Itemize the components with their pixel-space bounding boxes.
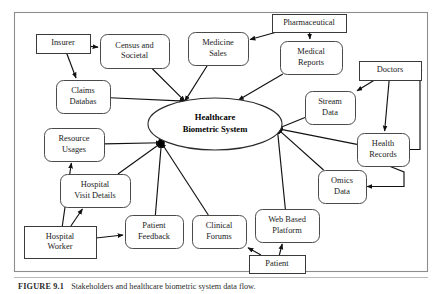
node-label-medical_reports: Reports <box>298 58 324 67</box>
node-label-claims_database: Claims <box>71 86 95 95</box>
edge-doctors-to-stream_data <box>357 80 375 91</box>
edge-health_records-to-omics_data <box>367 166 404 187</box>
edge-medical_reports-to-center <box>238 74 282 100</box>
edge-clinical_forums-to-center <box>161 143 208 215</box>
node-label-stream_data: Stream <box>318 97 342 106</box>
caption-text: Stakeholders and healthcare biometric sy… <box>71 282 255 291</box>
node-label-health_records: Health <box>372 139 395 148</box>
center-label-line-2: Biometric System <box>183 124 249 134</box>
node-health_records[interactable]: HealthRecords <box>358 134 410 167</box>
node-label-insurer: Insurer <box>51 38 75 47</box>
node-label-hospital_worker: Hospital <box>46 232 75 241</box>
edge-web_platform-to-center <box>277 129 285 209</box>
center-label-line-1: Healthcare <box>195 112 236 122</box>
node-label-census_societal: Societal <box>121 51 149 60</box>
node-hospital_worker[interactable]: HospitalWorker <box>25 227 97 259</box>
node-label-hospital_visit: Hospital <box>81 180 110 189</box>
node-claims_database[interactable]: ClaimsDatabas <box>57 81 111 114</box>
node-stream_data[interactable]: StreamData <box>306 92 356 125</box>
edge-patient_feedback-to-center <box>155 143 161 215</box>
node-resource_usages[interactable]: ResourceUsages <box>45 129 105 162</box>
node-label-census_societal: Census and <box>115 41 154 50</box>
node-label-patient: Patient <box>265 259 289 268</box>
node-label-omics_data: Omics <box>331 176 353 185</box>
edge-medicine_sales-to-center <box>185 65 208 101</box>
node-label-clinical_forums: Clinical <box>206 221 233 230</box>
edge-census_societal-to-center <box>152 68 185 101</box>
node-label-clinical_forums: Forums <box>206 232 232 241</box>
node-patient_feedback[interactable]: PatientFeedback <box>126 216 184 249</box>
diagram-canvas: HealthcareBiometric System InsurerCensus… <box>0 0 442 294</box>
edge-insurer-to-census_societal <box>90 46 98 47</box>
node-label-omics_data: Data <box>334 187 350 196</box>
center-node[interactable]: HealthcareBiometric System <box>148 98 282 150</box>
node-omics_data[interactable]: OmicsData <box>319 171 367 204</box>
node-medical_reports[interactable]: MedicalReports <box>281 42 343 75</box>
edge-hospital_worker-to-hospital_visit <box>71 209 83 226</box>
node-label-stream_data: Data <box>322 108 338 117</box>
node-hospital_visit[interactable]: HospitalVisit Details <box>61 175 131 208</box>
edge-doctors-to-health_records <box>385 80 390 131</box>
node-label-patient_feedback: Feedback <box>138 232 171 241</box>
edge-patient-to-clinical_forums <box>248 248 261 255</box>
node-label-hospital_worker: Worker <box>48 242 73 251</box>
edge-insurer-to-claims_database <box>67 53 76 78</box>
edge-health_records-to-center <box>277 129 357 145</box>
node-label-doctors: Doctors <box>377 65 404 74</box>
node-label-resource_usages: Resource <box>58 134 89 143</box>
node-label-web_platform: Web Based <box>268 215 307 224</box>
figure-container: HealthcareBiometric System InsurerCensus… <box>0 0 442 294</box>
node-pharmaceutical[interactable]: Pharmaceutical <box>273 15 347 33</box>
node-label-medicine_sales: Medicine <box>202 38 234 47</box>
node-web_platform[interactable]: Web BasedPlatform <box>256 210 320 243</box>
node-label-web_platform: Platform <box>272 226 302 235</box>
node-label-pharmaceutical: Pharmaceutical <box>283 18 335 27</box>
node-medicine_sales[interactable]: MedicineSales <box>189 33 249 66</box>
figure-caption: FIGURE 9.1Stakeholders and healthcare bi… <box>18 282 438 291</box>
node-clinical_forums[interactable]: ClinicalForums <box>193 216 247 249</box>
node-label-medical_reports: Medical <box>297 47 325 56</box>
node-patient[interactable]: Patient <box>250 256 306 274</box>
edge-claims_database-to-center <box>110 98 185 101</box>
node-insurer[interactable]: Insurer <box>37 35 91 54</box>
node-label-medicine_sales: Sales <box>209 49 227 58</box>
edge-patient-to-web_platform <box>279 244 282 255</box>
edge-health_records-to-doctors <box>409 71 422 150</box>
edge-resource_usages-to-center <box>104 143 161 144</box>
edge-hospital_worker-to-patient_feedback <box>96 235 123 238</box>
node-label-patient_feedback: Patient <box>142 221 166 230</box>
node-label-hospital_visit: Visit Details <box>74 191 116 200</box>
node-doctors[interactable]: Doctors <box>360 62 422 81</box>
node-label-resource_usages: Usages <box>62 145 86 154</box>
node-label-health_records: Records <box>369 150 396 159</box>
node-label-claims_database: Databas <box>70 97 97 106</box>
edge-omics_data-to-center <box>277 129 323 170</box>
caption-label: FIGURE 9.1 <box>18 282 64 291</box>
edge-pharmaceutical-to-medicine_sales <box>250 32 277 40</box>
edge-hospital_visit-to-center <box>118 143 161 174</box>
node-census_societal[interactable]: Census andSocietal <box>101 35 170 69</box>
caption-divider <box>14 277 428 278</box>
